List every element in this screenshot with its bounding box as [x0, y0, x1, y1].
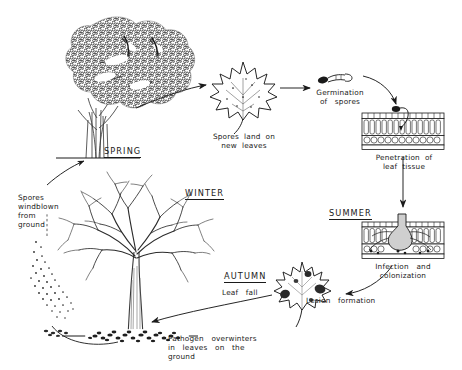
disease-cycle-diagram: SPRING SUMMER AUTUMN WINTER Spores windb… — [0, 0, 462, 370]
season-label-autumn: AUTUMN — [224, 271, 266, 283]
stage-label-spores-land: Spores land on new leaves — [196, 133, 292, 151]
leaf-cross-section-icon — [362, 106, 444, 150]
diagram-artwork — [0, 0, 462, 370]
stage-label-overwintering: Pathogen overwinters in leaves on the gr… — [168, 335, 257, 362]
stage-label-lesion-formation: Lesion formation — [306, 297, 375, 306]
stage-label-penetration: Penetration of leaf tissue — [358, 154, 450, 172]
stage-label-spores-windblown: Spores windblown from ground — [18, 194, 59, 230]
stage-label-leaf-fall: Leaf fall — [222, 289, 258, 298]
season-label-summer: SUMMER — [329, 208, 372, 220]
healthy-leaf-icon — [210, 62, 277, 134]
arrow-ground-to-tree — [47, 161, 84, 185]
stage-label-infection: Infection and colonization — [358, 263, 448, 281]
spore-cloud-icon — [30, 241, 74, 319]
lesioned-leaf-icon — [274, 262, 331, 327]
stage-label-germination: Germination of spores — [304, 89, 376, 107]
infected-tissue-icon — [362, 214, 444, 259]
leafy-tree-icon — [55, 8, 205, 158]
germinating-spore-icon — [317, 74, 352, 84]
arrow-leaf-fall — [152, 295, 272, 322]
season-label-spring: SPRING — [104, 146, 141, 158]
season-label-winter: WINTER — [185, 188, 224, 200]
